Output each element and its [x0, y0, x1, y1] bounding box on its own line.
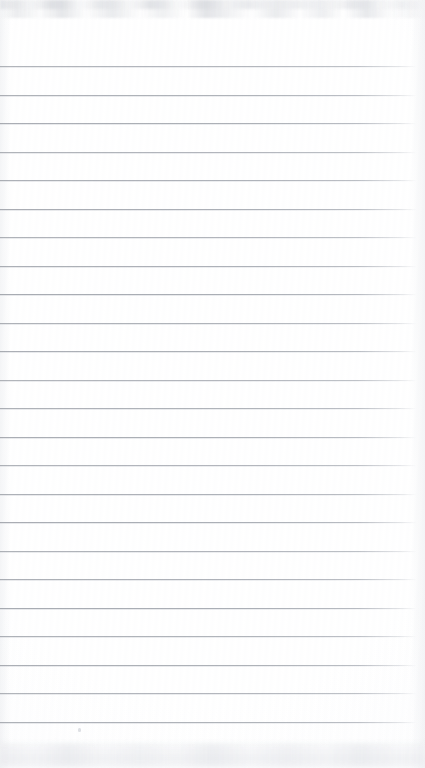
rule-line	[0, 266, 416, 267]
rule-line	[0, 209, 416, 210]
rule-line	[0, 437, 416, 438]
rule-line	[0, 380, 416, 381]
ruled-lines	[0, 0, 425, 768]
rule-line	[0, 465, 416, 466]
rule-line	[0, 351, 416, 352]
rule-line	[0, 237, 416, 238]
rule-line	[0, 693, 416, 694]
rule-line	[0, 608, 416, 609]
rule-line	[0, 323, 416, 324]
dust-speck	[78, 728, 81, 732]
rule-line	[0, 522, 416, 523]
rule-line	[0, 408, 416, 409]
rule-line	[0, 722, 416, 723]
rule-line	[0, 66, 416, 67]
rule-line	[0, 123, 416, 124]
scanned-page	[0, 0, 425, 768]
rule-line	[0, 636, 416, 637]
rule-line	[0, 579, 416, 580]
scan-noise-bottom-mottle	[0, 744, 425, 766]
rule-line	[0, 180, 416, 181]
rule-line	[0, 665, 416, 666]
rule-line	[0, 551, 416, 552]
rule-line	[0, 294, 416, 295]
rule-line	[0, 152, 416, 153]
rule-line	[0, 494, 416, 495]
rule-line	[0, 95, 416, 96]
